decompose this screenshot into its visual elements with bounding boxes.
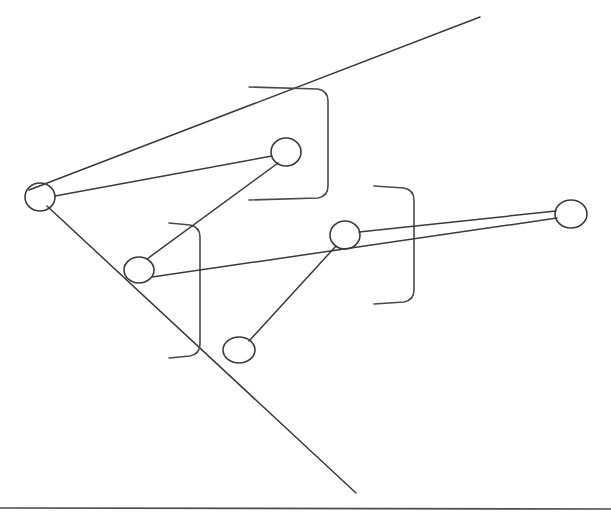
long-stroke-s1 xyxy=(29,17,480,190)
long-stroke-s2 xyxy=(47,206,356,493)
edge-n2-n3 xyxy=(147,163,278,259)
bottom-rule xyxy=(0,508,611,509)
node-n5[interactable] xyxy=(330,221,360,249)
bracket-top-middle xyxy=(249,87,328,200)
long-stroke-group xyxy=(29,17,480,493)
edge-group xyxy=(55,156,557,341)
node-n6[interactable] xyxy=(555,200,587,228)
node-n2[interactable] xyxy=(124,257,154,283)
edge-n5-n6 xyxy=(359,211,556,232)
sketch-canvas xyxy=(0,0,611,517)
node-group xyxy=(25,138,587,363)
bracket-group xyxy=(169,87,414,358)
node-n4[interactable] xyxy=(223,337,255,363)
bracket-lower-left xyxy=(169,223,200,358)
bracket-right xyxy=(374,186,414,304)
node-n1[interactable] xyxy=(25,183,55,211)
node-n3[interactable] xyxy=(271,138,301,166)
edge-n2-n6 xyxy=(152,218,557,277)
diagram-svg xyxy=(0,0,611,517)
edge-n1-n3 xyxy=(55,156,272,196)
